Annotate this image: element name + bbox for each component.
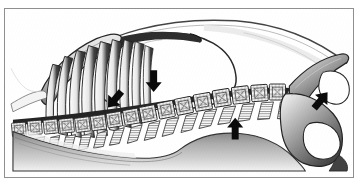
engraving-grain — [5, 9, 353, 177]
figure-frame — [4, 8, 354, 178]
anatomical-illustration — [5, 9, 353, 177]
